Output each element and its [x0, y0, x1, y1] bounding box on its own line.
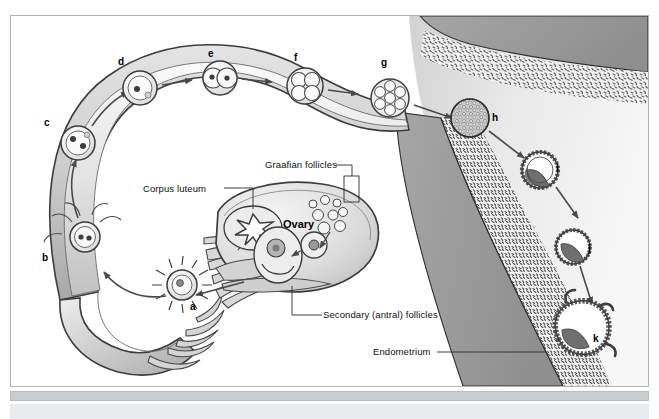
- stage-letter-b: b: [42, 252, 48, 263]
- callout-endometrium: Endometrium: [373, 346, 431, 357]
- stage-letter-i: i: [556, 163, 559, 174]
- stage-letter-j: j: [588, 243, 591, 254]
- diagram-root: Ovary Corpus luteum Graafian follicles S…: [0, 0, 659, 419]
- stage-letter-a: a: [190, 301, 196, 312]
- stage-e-two-cell: [203, 61, 237, 95]
- stage-letter-e: e: [208, 48, 214, 59]
- stage-f-four-cell: [287, 68, 323, 104]
- stage-letter-g: g: [381, 57, 387, 68]
- stage-c-zygote: [61, 126, 95, 160]
- organ-label-ovary: Ovary: [283, 218, 314, 230]
- bottom-strip: [10, 404, 649, 419]
- stage-j-blastocyst: [556, 230, 590, 264]
- stage-h-late-morula: [451, 99, 489, 137]
- stage-d-zygote: [123, 71, 157, 105]
- callout-corpus-luteum: Corpus luteum: [143, 183, 206, 194]
- bottom-bar: [10, 391, 649, 401]
- diagram-canvas: [0, 0, 659, 419]
- stage-letter-d: d: [118, 56, 124, 67]
- stage-letter-k: k: [593, 333, 599, 344]
- stage-letter-h: h: [492, 112, 498, 123]
- stage-letter-f: f: [294, 52, 297, 63]
- stage-g-morula: [371, 79, 409, 117]
- callout-secondary-antral-follicles: Secondary (antral) follicles: [323, 309, 438, 320]
- stage-letter-c: c: [44, 117, 50, 128]
- callout-graafian-follicles: Graafian follicles: [265, 159, 337, 170]
- stage-i-blastocyst: [522, 152, 558, 188]
